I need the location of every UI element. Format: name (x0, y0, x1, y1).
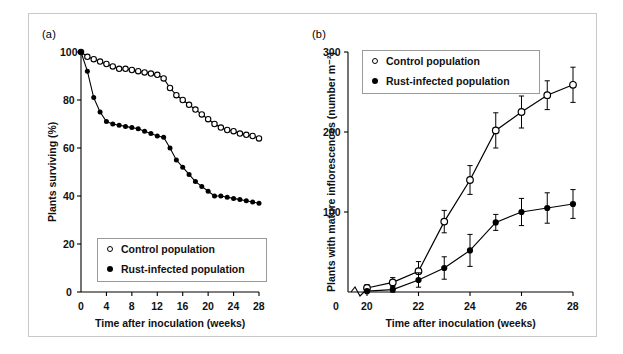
panel-b-xtick-24: 24 (464, 300, 476, 312)
panel-a-xtick-12: 12 (151, 300, 163, 312)
panel-a-ytick-40: 40 (63, 190, 75, 202)
legend-row-control: Control population (363, 51, 539, 71)
panel-a-xtick-24: 24 (228, 300, 240, 312)
panel-b-legend: Control population Rust-infected populat… (362, 50, 540, 94)
panel-a-ytick-20: 20 (63, 238, 75, 250)
panel-a-xtick-4: 4 (103, 300, 109, 312)
panel-a-xtick-28: 28 (253, 300, 265, 312)
panel-a-xtick-8: 8 (129, 300, 135, 312)
legend-label-control: Control population (386, 55, 480, 67)
panel-a-xtick-16: 16 (177, 300, 189, 312)
panel-a-ytick-0: 0 (66, 286, 72, 298)
legend-row-infected: Rust-infected population (363, 71, 539, 91)
panel-a-ytick-80: 80 (63, 94, 75, 106)
panel-a-xtick-0: 0 (78, 300, 84, 312)
panel-b-xtick-22: 22 (413, 300, 425, 312)
panel-a-xtick-20: 20 (202, 300, 214, 312)
panel-b-xtick-origin: 0 (333, 300, 339, 312)
legend-label-infected: Rust-infected population (386, 75, 510, 87)
figure-container: (a) Plants surviving (%) Time after inoc… (0, 0, 623, 354)
panel-b-ytick-300: 300 (323, 46, 341, 58)
open-circle-icon (372, 58, 378, 64)
panel-a-ytick-60: 60 (63, 142, 75, 154)
panel-a-ytick-100: 100 (60, 46, 78, 58)
panel-b-ytick-200: 200 (323, 126, 341, 138)
panel-b-xtick-26: 26 (516, 300, 528, 312)
panel-b-ytick-100: 100 (323, 206, 341, 218)
filled-circle-icon (372, 78, 378, 84)
panel-b-xtick-28: 28 (567, 300, 579, 312)
panel-b-xtick-20: 20 (361, 300, 373, 312)
